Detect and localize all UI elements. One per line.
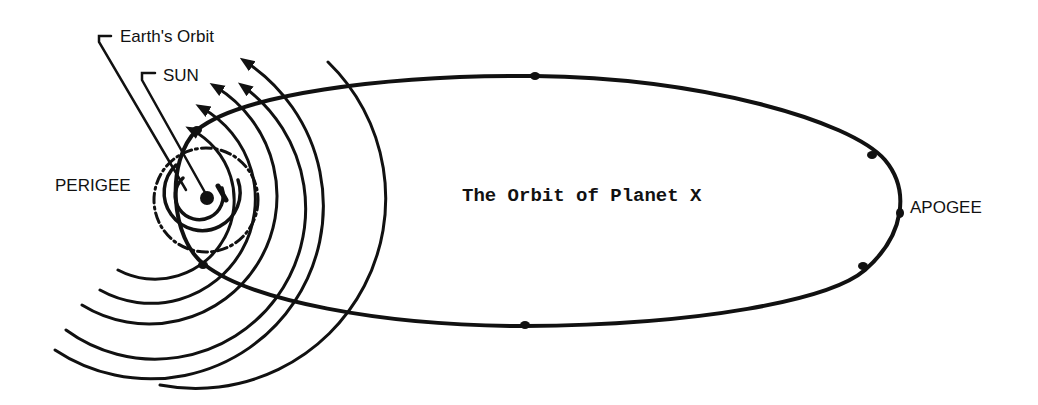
wave-arc	[55, 62, 323, 379]
sun-label: SUN	[163, 66, 199, 85]
orbit-diagram: Earth's Orbit SUN PERIGEE APOGEE The Orb…	[0, 0, 1038, 405]
sun-icon	[200, 191, 214, 205]
diagram-title: The Orbit of Planet X	[462, 185, 702, 207]
earths-orbit-leader-line	[99, 36, 186, 190]
perigee-label: PERIGEE	[55, 176, 131, 195]
orbit-marker	[867, 151, 877, 159]
wave-arcs	[55, 62, 386, 388]
orbit-marker	[858, 262, 868, 270]
orbit-marker	[192, 126, 202, 134]
orbit-marker	[198, 261, 208, 269]
orbit-marker	[896, 208, 904, 218]
orbit-marker	[520, 321, 530, 329]
orbit-marker	[530, 72, 540, 80]
apogee-label: APOGEE	[910, 198, 982, 217]
sun-marker-arrow	[218, 186, 226, 200]
earths-orbit-label: Earth's Orbit	[120, 27, 214, 46]
